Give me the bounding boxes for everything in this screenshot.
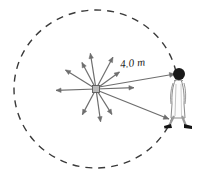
line-to-head-shaft xyxy=(99,74,175,87)
physics-diagram-figure: 4.0 m xyxy=(0,0,200,179)
arrow-up-left-head xyxy=(82,63,86,68)
arrow-down-left-head xyxy=(82,109,86,114)
walking-person-figure xyxy=(164,68,192,129)
arrow-up-right-head xyxy=(109,57,113,62)
person-shoe-back xyxy=(164,124,172,129)
arrow-left-head xyxy=(56,88,61,92)
arrow-right-shaft xyxy=(96,88,134,89)
arrow-up-left-far-head xyxy=(65,70,70,75)
arrow-down-right-head xyxy=(107,109,112,114)
arrow-left-shaft xyxy=(56,89,96,90)
arrow-right-head xyxy=(129,86,134,90)
person-head xyxy=(173,68,185,80)
diagram-canvas xyxy=(0,0,200,179)
person-shoe-front xyxy=(184,124,192,129)
person-coat-fold-right xyxy=(181,84,182,116)
person-torso xyxy=(171,80,185,118)
point-source-marker xyxy=(93,86,100,93)
arrow-up-right-shaft xyxy=(96,57,113,89)
line-to-feet-head xyxy=(163,115,169,120)
arrow-up-head xyxy=(89,53,93,58)
arrow-down-head xyxy=(98,116,102,121)
line-to-feet-shaft xyxy=(99,91,169,119)
